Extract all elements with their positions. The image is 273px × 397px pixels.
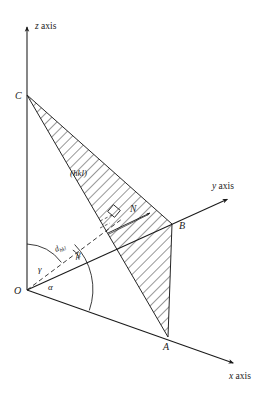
angle-label-gamma: γ [38,264,42,274]
diagram-canvas: z axis y axis x axis O C B A (hkl) N dhk… [0,0,273,397]
normal-vector-label: N [129,204,137,214]
angle-arcs-group [27,244,93,310]
angle-label-beta: β [75,250,81,260]
x-axis-line [27,290,233,363]
vertex-label-O: O [14,285,21,296]
d-hkl-label-group: dhkl [53,241,67,255]
vertex-label-C: C [15,90,22,101]
vertex-label-B: B [179,220,185,231]
hkl-plane-hatch-fill [27,95,172,337]
crystal-plane-diagram: z axis y axis x axis O C B A (hkl) N dhk… [0,0,273,397]
angle-label-alpha: α [48,282,53,292]
d-hkl-group [27,219,122,290]
y-axis-label: y axis [211,181,234,191]
x-axis-label: x axis [228,371,251,381]
hkl-plane-label: (hkl) [70,168,87,178]
d-hkl-line [27,219,122,290]
vertex-label-A: A [162,341,170,352]
z-axis-label: z axis [34,21,57,31]
d-hkl-label: dhkl [53,241,67,255]
hkl-plane-region [27,95,172,337]
